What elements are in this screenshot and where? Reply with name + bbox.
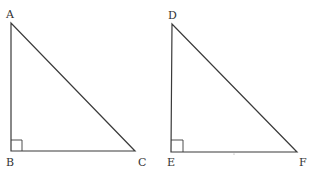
triangle-abc: A B C xyxy=(5,8,146,169)
vertex-label-f: F xyxy=(299,156,307,169)
vertex-label-e: E xyxy=(167,156,175,169)
triangle-def: D E F xyxy=(167,9,307,169)
vertex-label-c: C xyxy=(138,156,146,169)
stray-dot xyxy=(233,153,234,154)
diagram-canvas: A B C D E F xyxy=(0,0,311,171)
vertex-label-a: A xyxy=(5,8,15,21)
triangle-abc-edges xyxy=(11,23,135,151)
right-angle-marker-e xyxy=(171,140,183,152)
vertex-label-d: D xyxy=(168,9,177,22)
triangle-def-edges xyxy=(171,24,297,152)
right-angle-marker-b xyxy=(11,140,22,151)
vertex-label-b: B xyxy=(6,156,14,169)
